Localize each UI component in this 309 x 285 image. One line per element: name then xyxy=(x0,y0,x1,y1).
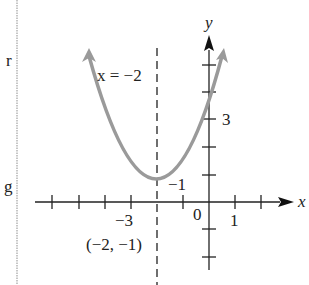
x-axis-label: x xyxy=(297,192,306,211)
x-axis: x xyxy=(35,192,306,211)
tick-label-origin: 0 xyxy=(193,205,202,224)
margin-text-fragment: r xyxy=(6,51,12,70)
parabola-graph: r g x y xyxy=(0,0,309,285)
tick-label-neg1: −1 xyxy=(168,175,186,194)
y-axis-label: y xyxy=(203,13,213,32)
y-axis-arrow-icon xyxy=(204,35,214,51)
tick-label-1: 1 xyxy=(230,211,239,230)
margin-text-fragment: g xyxy=(4,177,13,196)
x-axis-arrow-icon xyxy=(278,197,294,207)
tick-label-y3: 3 xyxy=(222,110,231,129)
vertex-label: (−2, −1) xyxy=(86,235,142,254)
symmetry-label: x = −2 xyxy=(97,66,142,85)
tick-label-neg3: −3 xyxy=(115,211,133,230)
y-axis: y xyxy=(202,13,216,270)
